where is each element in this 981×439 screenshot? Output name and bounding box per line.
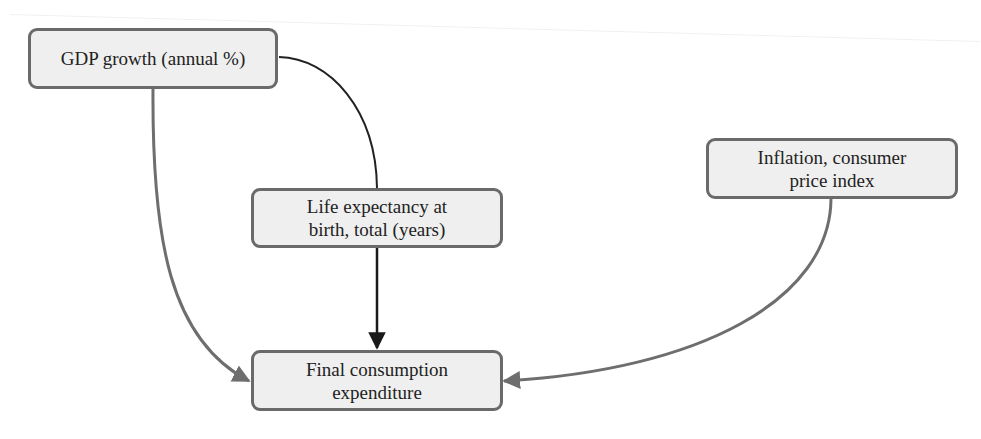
node-inflation: Inflation, consumer price index [706, 138, 958, 199]
diagram-canvas: GDP growth (annual %) Life expectancy at… [0, 0, 981, 439]
edge-inflation-to-final [504, 199, 831, 381]
node-label-line: expenditure [332, 381, 422, 404]
node-label-line: birth, total (years) [309, 218, 446, 241]
node-gdp-growth: GDP growth (annual %) [28, 28, 278, 89]
node-label-line: Life expectancy at [307, 195, 447, 218]
node-final-consumption: Final consumption expenditure [251, 350, 503, 411]
node-label-line: Inflation, consumer [758, 146, 907, 169]
node-life-expectancy: Life expectancy at birth, total (years) [251, 188, 503, 248]
edge-gdp-to-life [279, 57, 377, 188]
edge-gdp-to-final [153, 89, 249, 381]
node-label-line: Final consumption [306, 358, 448, 381]
node-label-line: GDP growth (annual %) [61, 47, 246, 70]
node-label-line: price index [790, 169, 875, 192]
